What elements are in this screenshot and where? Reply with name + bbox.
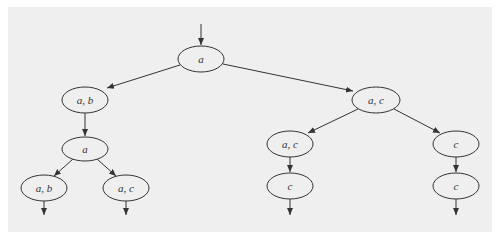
node-ac-level1: a, c: [352, 87, 400, 113]
node-label: c: [454, 180, 459, 192]
edge-n2-n4: [308, 109, 358, 133]
edge-n2-n5: [394, 109, 440, 133]
node-root: a: [178, 46, 224, 72]
node-ab-level3: a, b: [21, 175, 67, 201]
node-c-level3-mid: c: [267, 173, 313, 199]
node-label: c: [454, 138, 459, 150]
edge-n0-n2: [223, 64, 353, 91]
edge-n3-n6: [54, 159, 73, 176]
node-a-level2: a: [62, 137, 108, 161]
node-label: a, c: [282, 138, 298, 150]
node-c-level2: c: [433, 131, 479, 157]
node-ab-level1: a, b: [62, 87, 108, 113]
node-label: a: [198, 53, 204, 65]
node-label: a, b: [77, 94, 94, 106]
node-ac-level3: a, c: [103, 175, 149, 201]
node-label: a, c: [368, 94, 384, 106]
node-label: a, b: [36, 182, 53, 194]
edge-n0-n1: [107, 65, 180, 88]
edge-n3-n7: [97, 159, 116, 176]
node-label: c: [288, 180, 293, 192]
node-c-level3-right: c: [433, 173, 479, 199]
node-ac-level2: a, c: [267, 131, 313, 157]
node-label: a: [82, 143, 88, 155]
node-label: a, c: [118, 182, 134, 194]
tree-diagram: a a, b a, c a a, c c a, b a, c c c: [0, 0, 499, 242]
